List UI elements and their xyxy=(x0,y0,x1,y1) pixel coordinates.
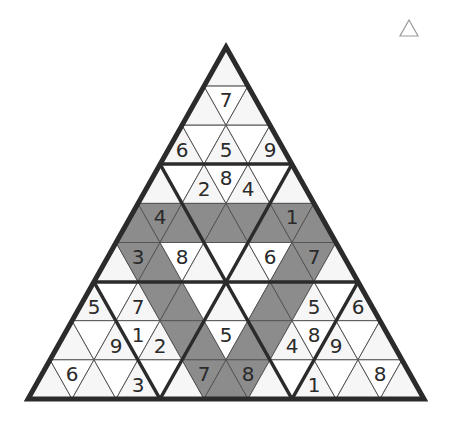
given-digit: 5 xyxy=(88,295,101,319)
puzzle-board: 765928441386757569125489637818 xyxy=(0,0,450,421)
given-digit: 6 xyxy=(264,245,277,269)
puzzle-cell[interactable] xyxy=(204,47,248,86)
given-digit: 5 xyxy=(220,323,233,347)
given-digit: 4 xyxy=(286,334,299,358)
given-digit: 1 xyxy=(286,205,299,229)
given-digit: 4 xyxy=(242,177,255,201)
given-digit: 9 xyxy=(330,334,343,358)
given-digit: 8 xyxy=(220,166,233,190)
given-digit: 8 xyxy=(308,323,321,347)
given-digit: 8 xyxy=(242,362,255,386)
given-digit: 7 xyxy=(220,88,233,112)
given-digit: 5 xyxy=(308,295,321,319)
given-digit: 9 xyxy=(264,138,277,162)
given-digit: 6 xyxy=(352,295,365,319)
given-digit: 3 xyxy=(132,373,145,397)
given-digit: 6 xyxy=(176,138,189,162)
given-digit: 2 xyxy=(198,177,211,201)
given-digit: 8 xyxy=(374,362,387,386)
given-digit: 5 xyxy=(220,138,233,162)
given-digit: 1 xyxy=(132,323,145,347)
given-digit: 8 xyxy=(176,245,189,269)
given-digit: 9 xyxy=(110,334,123,358)
given-digit: 7 xyxy=(198,362,211,386)
given-digit: 2 xyxy=(154,334,167,358)
given-digit: 1 xyxy=(308,373,321,397)
given-digit: 3 xyxy=(132,245,145,269)
given-digit: 7 xyxy=(308,245,321,269)
triangle-outline-icon[interactable] xyxy=(398,18,420,38)
given-digit: 4 xyxy=(154,205,167,229)
given-digit: 7 xyxy=(132,295,145,319)
given-digit: 6 xyxy=(66,362,79,386)
